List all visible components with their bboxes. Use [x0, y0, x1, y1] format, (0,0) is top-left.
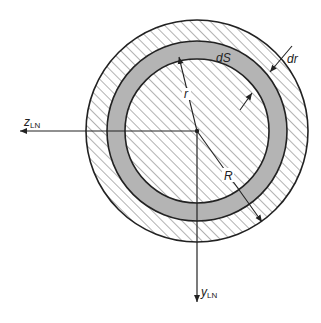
label-y-axis: yLN	[200, 285, 217, 300]
label-z-axis: zLN	[23, 115, 40, 130]
label-R: R	[224, 169, 233, 183]
label-dr: dr	[287, 52, 299, 66]
label-dS: dS	[216, 51, 231, 65]
circular-cross-section-diagram: zLN yLN r R dS dr	[0, 0, 321, 323]
